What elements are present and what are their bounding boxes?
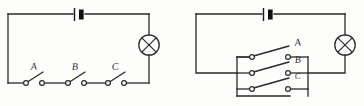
left-battery — [75, 8, 84, 21]
left-switch-a[interactable] — [24, 72, 45, 85]
switch-c-blade — [254, 78, 290, 88]
right-right-wire-bottom — [308, 55, 345, 73]
left-switch-b-label: B — [71, 61, 78, 72]
switch-c-terminal-right — [122, 81, 127, 86]
right-switch-b[interactable] — [250, 62, 291, 75]
right-switch-c-label: C — [294, 71, 301, 81]
left-circuit: A B C — [8, 8, 159, 85]
circuit-figure: A B C — [0, 0, 364, 106]
left-lamp — [139, 35, 159, 55]
switch-a-blade — [254, 46, 290, 56]
right-switch-a[interactable] — [250, 46, 291, 59]
left-switch-b[interactable] — [66, 72, 87, 85]
switch-a-terminal-left — [24, 81, 29, 86]
right-lamp — [335, 35, 355, 55]
left-switch-a-label: A — [29, 60, 38, 72]
battery-short-plate-icon — [80, 10, 84, 19]
switch-a-terminal-right — [40, 81, 45, 86]
right-switch-a-label: A — [293, 36, 302, 48]
right-switch-c[interactable] — [250, 78, 291, 91]
switch-c-terminal-left — [106, 81, 111, 86]
switch-a-terminal-right — [286, 55, 291, 60]
right-circuit: A B C — [196, 8, 355, 96]
switch-b-terminal-right — [82, 81, 87, 86]
battery-short-plate-icon — [269, 10, 273, 19]
switch-c-terminal-right — [286, 87, 291, 92]
circuit-canvas: A B C — [0, 0, 364, 106]
switch-b-terminal-left — [66, 81, 71, 86]
switch-b-terminal-right — [286, 71, 291, 76]
switch-b-blade — [254, 62, 290, 72]
right-battery — [264, 8, 273, 21]
switch-a-terminal-left — [250, 55, 255, 60]
left-switch-c[interactable] — [106, 72, 127, 85]
right-switch-b-label: B — [294, 54, 301, 65]
right-left-wire — [196, 14, 237, 73]
switch-c-terminal-left — [250, 87, 255, 92]
left-switch-c-label: C — [111, 61, 119, 72]
switch-b-terminal-left — [250, 71, 255, 76]
